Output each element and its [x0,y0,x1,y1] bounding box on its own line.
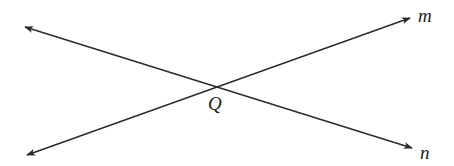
label-n: n [420,142,430,163]
label-m: m [418,5,432,26]
line-n [25,27,412,148]
line-m [27,18,410,155]
label-intersection-q: Q [208,93,222,114]
intersecting-lines-diagram: m n Q [0,0,454,166]
